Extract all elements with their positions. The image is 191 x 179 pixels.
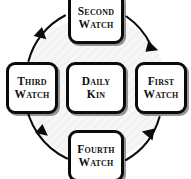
node-second-watch[interactable]: Second Watch: [68, 0, 124, 44]
node-fourth-watch[interactable]: Fourth Watch: [68, 130, 124, 179]
node-first-watch[interactable]: First Watch: [135, 62, 187, 114]
node-first-watch-line1: First: [148, 76, 175, 88]
node-daily-kin-line2: Kin: [87, 89, 105, 101]
node-second-watch-line2: Watch: [78, 19, 113, 31]
node-daily-kin-line1: Daily: [82, 76, 111, 88]
node-third-watch[interactable]: Third Watch: [6, 62, 58, 114]
node-first-watch-line2: Watch: [143, 89, 178, 101]
node-third-watch-line1: Third: [17, 76, 47, 88]
node-third-watch-line2: Watch: [14, 89, 49, 101]
node-fourth-watch-line2: Watch: [78, 157, 113, 169]
cycle-diagram: Second Watch Third Watch Daily Kin First…: [0, 0, 191, 179]
node-daily-kin[interactable]: Daily Kin: [66, 62, 126, 114]
node-fourth-watch-line1: Fourth: [77, 144, 114, 156]
node-second-watch-line1: Second: [78, 6, 115, 18]
